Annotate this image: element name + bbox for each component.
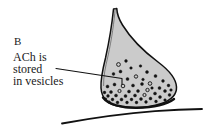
synaptic-vesicle — [139, 65, 142, 68]
synaptic-vesicle — [128, 90, 131, 93]
synaptic-vesicle — [145, 101, 148, 104]
synaptic-vesicle — [155, 100, 158, 103]
synaptic-vesicle — [151, 87, 154, 90]
panel-letter-b: B — [14, 36, 21, 47]
synaptic-vesicle — [132, 84, 135, 87]
synaptic-vesicle — [126, 78, 129, 81]
synaptic-vesicle — [115, 94, 118, 97]
synaptic-vesicle — [149, 97, 152, 100]
synaptic-vesicle — [164, 90, 167, 93]
synaptic-vesicle — [124, 95, 127, 98]
synaptic-vesicle — [119, 70, 122, 73]
synaptic-vesicle — [148, 82, 152, 86]
synaptic-vesicle — [168, 94, 171, 97]
synaptic-vesicle — [162, 80, 165, 83]
synaptic-vesicle — [106, 85, 109, 88]
synaptic-vesicle — [103, 91, 106, 94]
synaptic-vesicle — [167, 84, 170, 87]
synaptic-vesicle — [104, 98, 107, 101]
synaptic-vesicle — [126, 101, 129, 104]
caption-line-3: in vesicles — [13, 75, 63, 87]
synaptic-vesicle — [170, 89, 173, 92]
synaptic-vesicle — [137, 90, 140, 93]
synaptic-vesicle — [118, 89, 121, 92]
synaptic-vesicle — [141, 83, 144, 86]
synaptic-vesicle — [146, 71, 149, 74]
synaptic-vesicle — [116, 101, 119, 104]
synaptic-vesicle — [120, 98, 123, 101]
synaptic-vesicle — [134, 75, 137, 78]
synaptic-vesicle — [112, 73, 115, 76]
synapse-figure-panel-b: B ACh is stored in vesicles — [0, 0, 204, 134]
synaptic-vesicle — [135, 101, 138, 104]
synaptic-vesicle — [159, 96, 162, 99]
synaptic-vesicle — [158, 87, 161, 90]
synaptic-vesicle — [110, 91, 113, 94]
synaptic-vesicle — [134, 94, 137, 97]
synaptic-vesicle — [142, 78, 145, 81]
synaptic-vesicle — [130, 67, 133, 70]
synaptic-vesicle — [130, 98, 133, 101]
synaptic-vesicle — [111, 98, 114, 101]
postsynaptic-membrane — [62, 109, 202, 124]
synaptic-vesicle — [140, 98, 143, 101]
synaptic-vesicle — [164, 99, 167, 102]
synaptic-vesicle — [146, 88, 149, 91]
synaptic-vesicle — [107, 95, 110, 98]
synaptic-vesicle — [143, 93, 146, 96]
synaptic-vesicle — [117, 63, 121, 67]
synaptic-vesicle — [125, 60, 128, 63]
synaptic-vesicle — [113, 83, 116, 86]
synaptic-vesicle — [154, 75, 157, 78]
synaptic-vesicle — [108, 101, 111, 104]
synaptic-vesicle — [154, 92, 157, 95]
